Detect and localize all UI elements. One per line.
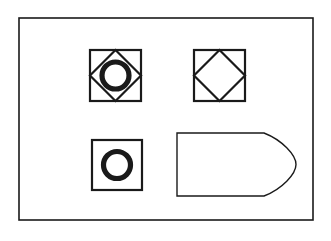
geometric-figure — [0, 0, 331, 241]
drawing-canvas — [0, 0, 331, 241]
canvas-background — [0, 0, 331, 241]
